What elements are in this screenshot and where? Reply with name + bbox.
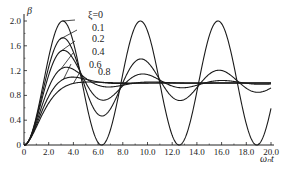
series-label: 0.4 [92, 46, 105, 57]
curve-labels: ξ=00.10.20.40.60.8 [60, 9, 111, 83]
y-tick-label: 1.6 [10, 41, 22, 51]
x-tick-label: 6.0 [92, 147, 104, 157]
x-tick-label: 4.0 [68, 147, 80, 157]
x-tick-label: 10.0 [140, 147, 156, 157]
x-axis-title: ωₙt [260, 153, 274, 164]
chart: 02.04.06.08.010.012.014.016.018.020.000.… [0, 0, 286, 174]
y-tick-label: 0 [17, 140, 22, 150]
series-label: 0.8 [98, 66, 111, 77]
x-tick-label: 8.0 [117, 147, 129, 157]
series-line-xi-0-6 [24, 77, 271, 145]
series-line-xi-0-8 [24, 82, 271, 145]
x-tick-label: 14.0 [189, 147, 205, 157]
label-leader-line [62, 20, 75, 21]
curves [24, 21, 271, 145]
x-tick-label: 0 [22, 147, 27, 157]
y-tick-label: 2.0 [10, 16, 22, 26]
ticks: 02.04.06.08.010.012.014.016.018.020.000.… [10, 16, 280, 157]
series-label: ξ=0 [88, 9, 103, 21]
series-label: 0.1 [92, 22, 105, 33]
series-label: 0.2 [92, 33, 105, 44]
y-tick-label: 0.4 [10, 115, 22, 125]
y-axis-title: β [26, 5, 32, 16]
y-tick-label: 1.2 [10, 66, 21, 76]
label-leader-line [61, 53, 73, 69]
x-tick-label: 12.0 [164, 147, 180, 157]
y-tick-label: 0.8 [10, 90, 22, 100]
series-line-xi-0-1 [24, 38, 271, 145]
x-tick-label: 18.0 [238, 147, 254, 157]
label-leader-line [60, 30, 77, 39]
x-tick-label: 2.0 [43, 147, 55, 157]
series-line-xi-0-4 [24, 67, 271, 145]
x-tick-label: 16.0 [214, 147, 230, 157]
